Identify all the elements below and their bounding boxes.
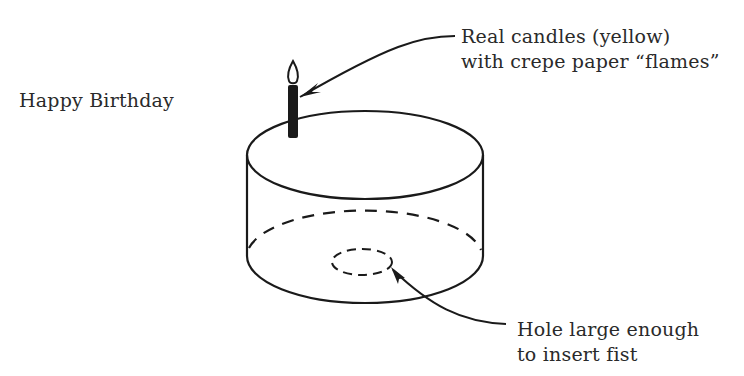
candles-annotation-line1: Real candles (yellow): [461, 24, 720, 49]
diagram-canvas: Happy Birthday Real candles (yellow) wit…: [0, 0, 744, 376]
hole-dashed-ellipse: [332, 249, 392, 275]
cake-bottom-front-arc: [247, 256, 483, 303]
hole-arrowhead-icon: [391, 267, 405, 284]
candle-arrowhead-icon: [300, 83, 321, 97]
cake-top-ellipse: [247, 111, 483, 199]
candle-body: [288, 85, 298, 138]
candles-annotation: Real candles (yellow) with crepe paper “…: [461, 24, 720, 74]
cake-bottom-back-arc-dashed: [249, 211, 481, 250]
candles-annotation-line2: with crepe paper “flames”: [461, 49, 720, 74]
title-text: Happy Birthday: [19, 89, 174, 111]
title-label: Happy Birthday: [19, 88, 174, 113]
hole-annotation: Hole large enough to insert fist: [517, 317, 699, 367]
hole-annotation-line1: Hole large enough: [517, 317, 699, 342]
candle-flame-icon: [288, 61, 298, 83]
hole-annotation-line2: to insert fist: [517, 342, 699, 367]
candle-leader-line: [300, 36, 455, 97]
hole-leader-line: [393, 270, 506, 324]
